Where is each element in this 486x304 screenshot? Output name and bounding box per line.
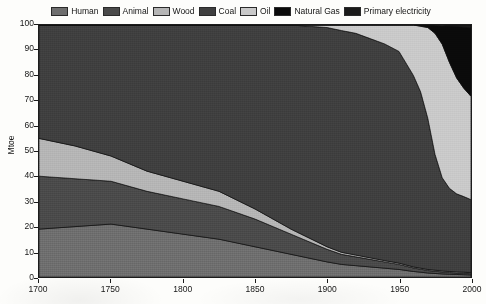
x-tick-label: 1700 (29, 284, 48, 294)
x-tick-label: 1800 (173, 284, 192, 294)
x-tick-label: 1900 (318, 284, 337, 294)
legend-swatch-icon (240, 7, 257, 16)
x-tick-label: 1750 (101, 284, 120, 294)
legend-item-wood[interactable]: Wood (153, 7, 199, 16)
legend-item-label: Animal (120, 7, 153, 16)
legend-swatch-icon (344, 7, 361, 16)
legend-item-natural-gas[interactable]: Natural Gas (274, 7, 343, 16)
legend-item-label: Oil (257, 7, 274, 16)
x-tick-label: 1950 (390, 284, 409, 294)
y-axis-label: Mtoe (6, 122, 16, 168)
x-tick-mark (38, 279, 39, 283)
legend-item-human[interactable]: Human (51, 7, 102, 16)
y-tick-label: 90 (4, 44, 34, 53)
legend-swatch-icon (103, 7, 120, 16)
x-tick-mark (183, 279, 184, 283)
y-tick-label: 20 (4, 222, 34, 231)
y-tick-label: 0 (4, 273, 34, 282)
stacked-area-series (39, 25, 471, 277)
legend-swatch-icon (199, 7, 216, 16)
x-tick-label: 2000 (463, 284, 482, 294)
area-svg (39, 25, 471, 277)
legend-item-coal[interactable]: Coal (199, 7, 240, 16)
y-tick-label: 80 (4, 70, 34, 79)
y-tick-label: 30 (4, 197, 34, 206)
chart-legend: HumanAnimalWoodCoalOilNatural GasPrimary… (0, 7, 486, 16)
legend-item-label: Wood (170, 7, 199, 16)
y-tick-label: 70 (4, 95, 34, 104)
legend-swatch-icon (51, 7, 68, 16)
legend-item-primary-electricity[interactable]: Primary electricity (344, 7, 435, 16)
legend-item-label: Human (68, 7, 102, 16)
y-tick-label: 40 (4, 171, 34, 180)
y-tick-label: 100 (4, 19, 34, 28)
x-tick-mark (255, 279, 256, 283)
y-tick-label: 10 (4, 248, 34, 257)
legend-swatch-icon (274, 7, 291, 16)
legend-item-animal[interactable]: Animal (103, 7, 153, 16)
legend-item-oil[interactable]: Oil (240, 7, 274, 16)
x-tick-mark (327, 279, 328, 283)
legend-item-label: Primary electricity (361, 7, 435, 16)
legend-item-label: Natural Gas (291, 7, 343, 16)
chart-root: HumanAnimalWoodCoalOilNatural GasPrimary… (0, 0, 486, 304)
x-tick-label: 1850 (246, 284, 265, 294)
plot-area (38, 24, 472, 278)
x-tick-mark (110, 279, 111, 283)
x-axis: 1700175018001850190019502000 (38, 279, 472, 299)
x-tick-mark (400, 279, 401, 283)
x-tick-mark (472, 279, 473, 283)
legend-item-label: Coal (216, 7, 240, 16)
legend-swatch-icon (153, 7, 170, 16)
